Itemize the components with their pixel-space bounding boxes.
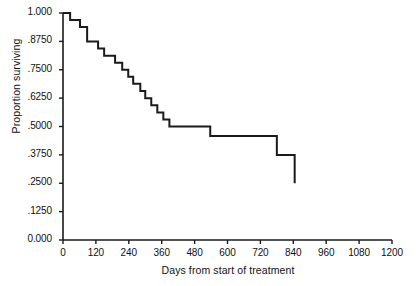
survival-step-curve	[63, 13, 295, 183]
survival-chart-figure: Proportion surviving Days from start of …	[0, 0, 416, 286]
plot-area	[0, 0, 416, 286]
axis-lines	[63, 13, 392, 240]
